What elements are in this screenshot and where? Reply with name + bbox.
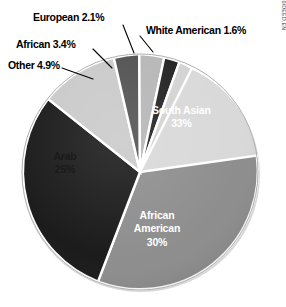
pie-chart-figure: European 2.1% White American 1.6% Africa…: [0, 0, 286, 307]
slice-label-south-asian-name: South Asian: [152, 104, 211, 117]
slice-label-south-asian-percent: 33%: [152, 117, 211, 130]
leader-line-european: [123, 25, 134, 53]
slice-label-african-american-percent: 30%: [114, 236, 200, 249]
slice-label-african-american-name-line2: American: [114, 222, 200, 235]
slice-label-arab-percent: 25%: [38, 163, 92, 176]
slice-label-arab: Arab 25%: [38, 150, 92, 177]
slice-label-south-asian: South Asian 33%: [152, 104, 211, 131]
callout-label-african: African 3.4%: [16, 39, 75, 50]
slice-label-arab-name: Arab: [38, 150, 92, 163]
callout-label-other: Other 4.9%: [8, 60, 60, 71]
attribution-credit: DIMASO, CREATIVECOMMONS.ORG/LICENSES/BY/…: [281, 0, 286, 78]
slice-label-african-american: African American 30%: [114, 209, 200, 249]
leader-line-white-american: [140, 36, 153, 52]
callout-label-white-american: White American 1.6%: [146, 25, 246, 36]
callout-label-european: European 2.1%: [33, 12, 104, 23]
slice-label-african-american-name-line1: African: [114, 209, 200, 222]
